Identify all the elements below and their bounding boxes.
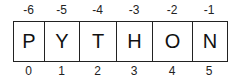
neg-index: -1 — [192, 3, 226, 17]
neg-index: -6 — [13, 3, 44, 17]
neg-index: -4 — [79, 3, 116, 17]
pos-index: 1 — [44, 64, 79, 78]
positive-index-row: 0 1 2 3 4 5 — [13, 64, 226, 78]
negative-index-row: -6 -5 -4 -3 -2 -1 — [13, 3, 226, 17]
char-cell: T — [80, 22, 117, 61]
string-cells: P Y T H O N — [13, 21, 228, 62]
char-cell: N — [193, 22, 227, 61]
pos-index: 4 — [152, 64, 192, 78]
pos-index: 3 — [116, 64, 152, 78]
char-cell: Y — [45, 22, 80, 61]
pos-index: 0 — [13, 64, 44, 78]
char-cell: P — [14, 22, 45, 61]
char-cell: O — [153, 22, 193, 61]
neg-index: -2 — [152, 3, 192, 17]
pos-index: 2 — [79, 64, 116, 78]
neg-index: -3 — [116, 3, 152, 17]
neg-index: -5 — [44, 3, 79, 17]
char-cell: H — [117, 22, 153, 61]
pos-index: 5 — [192, 64, 226, 78]
